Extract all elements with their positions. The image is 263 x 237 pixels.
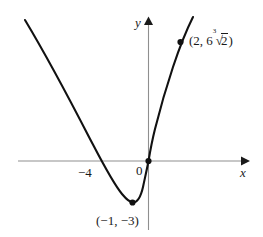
right-point-label-suffix: ) — [228, 33, 232, 48]
minimum-point-label: (−1, −3) — [96, 214, 139, 227]
x-tick-label-minus-4: −4 — [78, 166, 92, 179]
minimum-dot — [129, 199, 135, 205]
right-point-label-prefix: (2, 6 — [189, 33, 213, 48]
function-curve — [25, 17, 193, 203]
y-axis — [144, 17, 153, 231]
graph-figure: y x −4 0 (−1, −3) (2, 63√2) — [0, 0, 263, 237]
x-axis — [18, 157, 250, 166]
radical-index: 3 — [213, 28, 217, 35]
origin-dot — [145, 158, 151, 164]
right-point-label: (2, 63√2) — [189, 33, 233, 47]
x-axis-label: x — [240, 166, 246, 179]
right-point-dot — [177, 39, 183, 45]
radicand: 2 — [221, 33, 229, 47]
y-axis-label: y — [135, 16, 141, 29]
origin-label: 0 — [136, 164, 143, 177]
cube-root-icon: 3√2 — [213, 33, 229, 47]
